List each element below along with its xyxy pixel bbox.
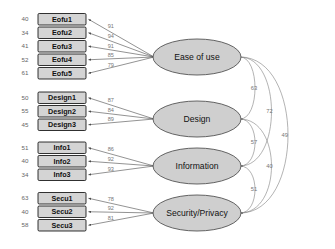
error-value-Design1: 50 xyxy=(22,94,29,101)
correlation-value-design-security_privacy: 40 xyxy=(266,163,272,169)
indicator-label-Secu3: Secu3 xyxy=(51,221,72,230)
correlation-value-ease_of_use-information: 72 xyxy=(266,108,272,114)
error-value-Eofu3: 41 xyxy=(22,42,29,49)
indicator-label-Info3: Info3 xyxy=(53,170,70,179)
error-value-Design2: 55 xyxy=(22,107,29,114)
error-value-Info1: 51 xyxy=(22,144,29,151)
latent-variables-group: Ease of useDesignInformationSecurity/Pri… xyxy=(153,39,241,231)
loading-path-Info3 xyxy=(89,166,155,175)
loading-path-Design2 xyxy=(89,111,155,119)
error-value-Eofu1: 40 xyxy=(22,15,29,22)
loading-path-Secu2 xyxy=(89,212,155,213)
error-value-Secu1: 63 xyxy=(22,194,29,201)
error-value-Design3: 45 xyxy=(22,121,29,128)
loading-value-Info2: 92 xyxy=(108,156,114,162)
latent-label-design: Design xyxy=(184,114,211,124)
indicator-label-Design2: Design2 xyxy=(48,107,76,116)
indicator-label-Eofu5: Eofu5 xyxy=(52,69,72,78)
loading-path-Info1 xyxy=(89,148,155,166)
indicator-boxes-group: Eofu1Eofu2Eofu3Eofu4Eofu5Design1Design2D… xyxy=(38,14,86,232)
loading-path-Secu3 xyxy=(89,213,155,225)
loading-value-Info1: 86 xyxy=(108,146,114,152)
error-value-Info2: 40 xyxy=(22,157,29,164)
loading-path-Secu1 xyxy=(89,198,155,213)
loading-value-Design1: 87 xyxy=(108,97,114,103)
correlation-value-design-information: 57 xyxy=(251,139,257,145)
latent-label-security_privacy: Security/Privacy xyxy=(166,208,228,218)
latent-label-ease_of_use: Ease of use xyxy=(174,52,220,62)
latent-label-information: Information xyxy=(176,161,219,171)
error-value-Eofu4: 52 xyxy=(22,56,29,63)
loading-value-Secu1: 78 xyxy=(108,196,114,202)
indicator-label-Eofu4: Eofu4 xyxy=(52,55,72,64)
correlation-value-ease_of_use-security_privacy: 49 xyxy=(282,132,288,138)
indicator-label-Design3: Design3 xyxy=(48,120,76,129)
indicator-label-Design1: Design1 xyxy=(48,93,76,102)
error-value-Eofu5: 61 xyxy=(22,69,29,76)
loading-value-Secu3: 81 xyxy=(108,215,114,221)
loading-value-Eofu5: 79 xyxy=(108,62,114,68)
loading-value-Eofu3: 91 xyxy=(108,43,114,49)
loading-value-Design2: 84 xyxy=(108,107,114,113)
indicator-label-Eofu1: Eofu1 xyxy=(52,15,72,24)
error-value-Secu3: 58 xyxy=(22,221,29,228)
loading-value-Eofu4: 85 xyxy=(108,52,114,58)
loading-value-Eofu2: 94 xyxy=(108,33,114,39)
indicator-label-Info2: Info2 xyxy=(53,157,70,166)
loading-value-Eofu1: 91 xyxy=(108,23,114,29)
loading-path-Info2 xyxy=(89,161,155,166)
diagram-canvas: Ease of useDesignInformationSecurity/Pri… xyxy=(0,0,335,249)
indicator-label-Secu2: Secu2 xyxy=(51,207,72,216)
correlation-value-information-security_privacy: 51 xyxy=(251,186,257,192)
indicator-label-Eofu3: Eofu3 xyxy=(52,42,72,51)
loading-value-Info3: 93 xyxy=(108,166,114,172)
error-value-Eofu2: 34 xyxy=(22,29,29,36)
correlation-value-ease_of_use-design: 63 xyxy=(251,85,257,91)
loading-paths-group xyxy=(89,19,155,225)
loading-value-Secu2: 92 xyxy=(108,205,114,211)
loading-path-Design3 xyxy=(89,119,155,125)
loading-value-Design3: 89 xyxy=(108,116,114,122)
indicator-label-Secu1: Secu1 xyxy=(51,194,72,203)
indicator-label-Info1: Info1 xyxy=(53,143,70,152)
error-value-Info3: 34 xyxy=(22,171,29,178)
indicator-label-Eofu2: Eofu2 xyxy=(52,28,72,37)
cfa-path-diagram: Ease of useDesignInformationSecurity/Pri… xyxy=(0,0,335,249)
loading-path-Eofu2 xyxy=(89,33,155,57)
error-value-Secu2: 40 xyxy=(22,208,29,215)
loading-path-Design1 xyxy=(89,98,155,119)
